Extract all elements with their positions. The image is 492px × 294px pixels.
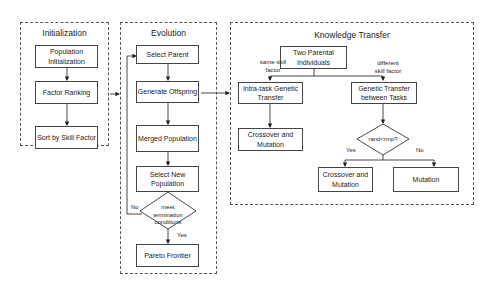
knowledge-transfer-title: Knowledge Transfer [231,30,473,40]
factor-ranking-box: Factor Ranking [35,81,98,104]
merged-population-box: Merged Population [136,125,199,152]
intra-task-genetic-transfer-box: Intra-task Genetic Transfer [238,82,303,104]
mutation-box: Mutation [393,167,459,192]
evolution-title: Evolution [121,28,216,38]
initialization-title: Initialization [21,28,108,38]
different-skill-factor-label: different skill factor [372,60,404,75]
sort-by-skill-factor-box: Sort by Skill Factor [35,126,98,149]
genetic-transfer-between-tasks-box: Genetic Transfer between Tasks [351,82,417,104]
rmp-yes-label: Yes [346,147,356,155]
termination-decision: meet termination conditions [146,204,190,227]
crossover-mutation-left-box: Crossover and Mutation [238,128,303,151]
rmp-no-label: No [416,147,424,155]
evolution-yes-label: Yes [177,232,187,240]
select-new-population-box: Select New Population [136,166,199,192]
population-initialization-box: Population Initialization [35,45,98,68]
same-skill-factor-label: same skill factor [258,59,288,74]
two-parental-individuals-box: Two Parental Individuals [280,46,347,69]
select-parent-box: Select Parent [136,45,199,64]
crossover-mutation-right-box: Crossover and Mutation [318,167,373,192]
evolution-no-label: No [131,204,139,212]
generate-offspring-box: Generate Offspring [136,81,199,103]
rand-rmp-decision: rand<rmp? [361,136,405,144]
pareto-frontier-box: Pareto Frontier [136,244,199,267]
